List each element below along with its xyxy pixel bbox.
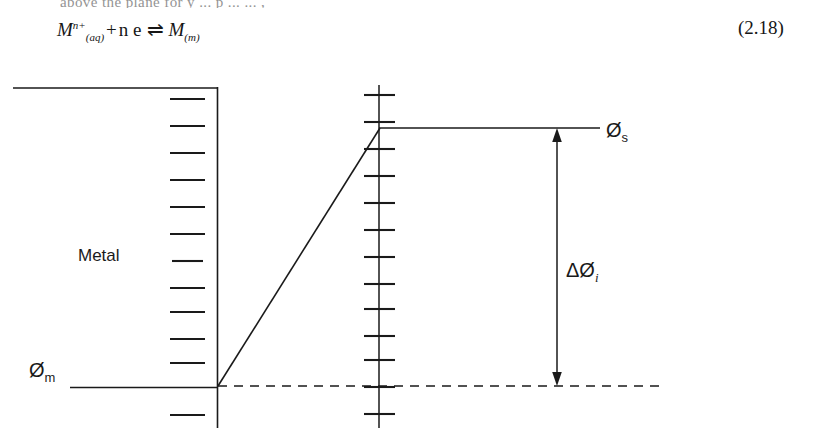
phi-metal-symbol: Ø <box>29 359 45 381</box>
page-canvas: above the plane for y ... p ... ... , Mn… <box>0 0 835 428</box>
phi-solution-label: Øs <box>606 119 628 145</box>
delta-phi-subscript: i <box>595 270 599 285</box>
phi-solution-symbol: Ø <box>606 119 622 141</box>
phi-metal-subscript: m <box>45 370 56 385</box>
arrow-head-up <box>552 128 562 142</box>
phi-metal-label: Øm <box>29 359 55 385</box>
delta-phi-measure-arrow <box>552 128 562 386</box>
diagram-svg <box>0 0 835 428</box>
negative-charge-column <box>170 99 205 415</box>
potential-ramp-line <box>218 128 380 386</box>
electrical-double-layer-diagram: Metal Øm Øs ΔØi <box>0 0 835 428</box>
phi-solution-subscript: s <box>622 130 629 145</box>
delta-phi-symbol: ΔØ <box>566 259 595 281</box>
delta-phi-label: ΔØi <box>566 259 599 286</box>
arrow-head-down <box>552 372 562 386</box>
metal-region-label: Metal <box>78 246 120 266</box>
